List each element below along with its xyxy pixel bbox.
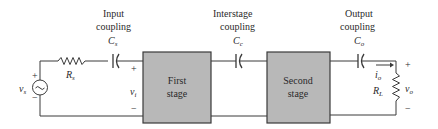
resistor-rs-icon (58, 58, 108, 65)
input-coupling-label-2: coupling (96, 21, 131, 32)
first-stage-block: First stage (143, 52, 211, 123)
second-stage-block: Second stage (267, 52, 330, 123)
output-coupling-label-1: Output (345, 8, 373, 19)
vs-minus: − (32, 92, 38, 103)
output-coupling-label-2: coupling (340, 21, 375, 32)
cc-label: Cc (233, 35, 244, 48)
input-coupling-label-1: Input (103, 8, 124, 19)
vs-label: vs (19, 83, 26, 96)
first-stage-label-2: stage (167, 88, 188, 99)
co-label: Co (354, 35, 365, 48)
interstage-coupling-label-1: Interstage (213, 8, 253, 19)
vi-label: vi (130, 86, 136, 99)
vo-plus: + (405, 59, 411, 70)
second-stage-label-1: Second (283, 75, 312, 86)
io-label: io (375, 69, 382, 82)
first-stage-label-1: First (168, 75, 187, 86)
cs-label: Cs (108, 35, 118, 48)
resistor-rl-icon (393, 73, 400, 101)
vo-label: vo (405, 83, 413, 96)
rs-label: Rs (65, 69, 75, 82)
source-branch (40, 61, 143, 116)
vo-minus: − (405, 103, 411, 114)
vi-minus: − (131, 103, 137, 114)
capacitor-cs-icon (113, 54, 143, 68)
vs-plus: + (32, 70, 38, 81)
interstage-coupling-label-2: coupling (220, 21, 255, 32)
io-arrow-icon (376, 63, 394, 68)
vi-plus: + (131, 63, 137, 74)
rl-label: RL (372, 85, 383, 98)
multistage-amplifier-diagram: + − vs Rs Input coupling Cs + vi − First… (0, 0, 438, 129)
capacitor-cc-icon (236, 54, 267, 68)
second-stage-label-2: stage (288, 88, 309, 99)
